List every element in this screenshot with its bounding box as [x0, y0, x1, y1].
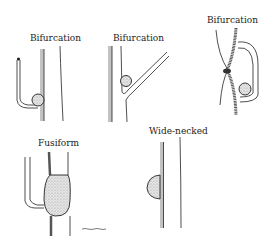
signature-scribble	[82, 229, 106, 230]
aneurysm-types-illustration: Bifurcation Bifurcation Bifurcation Fusi…	[0, 0, 274, 243]
illustration-drawing	[0, 0, 274, 243]
panel-bifurcation-3	[216, 28, 258, 115]
panel-bifurcation-1	[17, 46, 63, 121]
panel-fusiform	[25, 152, 106, 236]
panel-wide-necked	[147, 137, 181, 228]
panel-bifurcation-2	[108, 46, 169, 122]
